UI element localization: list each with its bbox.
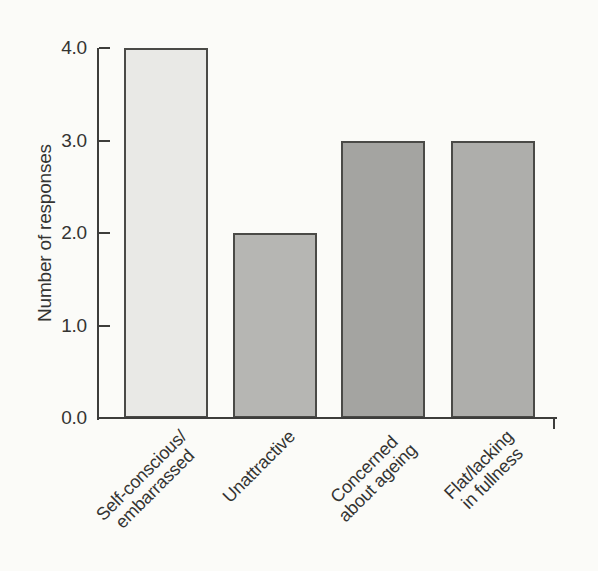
y-tick (99, 232, 110, 234)
x-tick-label: Flat/lacking in fullness (441, 427, 531, 517)
y-tick (99, 325, 110, 327)
x-tick-label: Self-conscious/ embarrassed (93, 427, 204, 538)
x-axis-line (97, 417, 557, 419)
y-tick-label: 1.0 (25, 315, 87, 337)
x-tick-label: Concerned about ageing (322, 427, 421, 526)
y-tick (99, 47, 110, 49)
y-tick-label: 2.0 (25, 222, 87, 244)
bar-self-conscious-embarrassed (124, 48, 208, 418)
bar-concerned-about-ageing (341, 141, 425, 419)
y-tick (99, 140, 110, 142)
y-tick-label: 4.0 (25, 37, 87, 59)
x-axis-end-tick (553, 417, 555, 429)
bar-flat-lacking-in-fullness (451, 141, 535, 419)
y-tick-label: 3.0 (25, 130, 87, 152)
y-axis-line (97, 48, 99, 420)
bar-unattractive (233, 233, 317, 418)
x-tick-label: Unattractive (220, 427, 300, 507)
y-tick (99, 417, 110, 419)
bar-chart-figure: Number of responses 0.01.02.03.04.0Self-… (0, 0, 598, 571)
y-tick-label: 0.0 (25, 407, 87, 429)
